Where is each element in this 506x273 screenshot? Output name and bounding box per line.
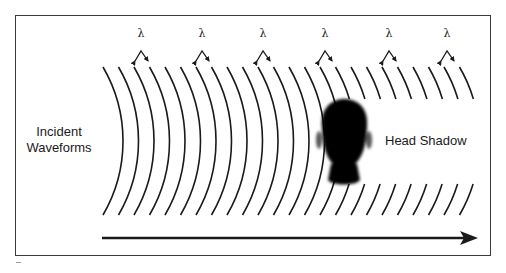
wavefront-arc: [103, 67, 123, 215]
wavefront-arc: [150, 67, 170, 215]
wavefront-arc: [367, 184, 381, 215]
wavefront-arc: [274, 67, 294, 215]
incident-label-line1: Incident: [24, 124, 94, 140]
lambda-label: λ: [260, 27, 267, 40]
wavefront-arc: [336, 67, 350, 99]
wavelength-arrow-icon: [319, 51, 332, 61]
wavefront-arc: [460, 184, 474, 215]
wavefront-arc: [336, 184, 350, 215]
wavefront-arc: [243, 67, 263, 215]
lambda-label: λ: [444, 27, 451, 40]
wavefront-arc: [134, 67, 154, 215]
wavefront-arc: [444, 67, 458, 99]
wavefront-arc: [382, 184, 396, 215]
wavefront-arc: [382, 67, 396, 99]
wavefront-arc: [429, 184, 443, 215]
figure-mark: [16, 262, 21, 271]
wavefront-arc: [444, 184, 458, 215]
lambda-label: λ: [138, 27, 145, 40]
wavefront-arc: [165, 67, 185, 215]
wavefront-arc: [367, 67, 381, 99]
wavefront-arc: [413, 184, 427, 215]
wavelength-arrow-icon: [196, 51, 209, 61]
wavefront-arc: [258, 67, 278, 215]
wavefront-arc: [413, 67, 427, 99]
lambda-label: λ: [386, 27, 393, 40]
wavefront-arc: [398, 184, 412, 215]
wavefront-arc: [351, 184, 365, 215]
wavefront-arc: [212, 67, 232, 215]
wavelength-arrow-icon: [257, 51, 270, 61]
lambda-label: λ: [322, 27, 329, 40]
lambda-label: λ: [199, 27, 206, 40]
wavefront-arc: [119, 67, 139, 215]
wavefront-arc: [227, 67, 247, 215]
head-shadow-label: Head Shadow: [385, 133, 467, 149]
wavefront-arc: [351, 67, 365, 99]
wavelength-arrow-icon: [441, 51, 454, 61]
incident-waveforms-label: Incident Waveforms: [24, 124, 94, 156]
propagation-direction-arrow: [102, 231, 478, 245]
wavefront-arc: [181, 67, 201, 215]
wavelength-arrow-icon: [135, 51, 148, 61]
incident-label-line2: Waveforms: [24, 140, 94, 156]
wavelength-markers: [135, 51, 454, 61]
wavelength-arrow-icon: [383, 51, 396, 61]
head-silhouette-icon: [316, 99, 372, 185]
wavefront-arc: [196, 67, 216, 215]
wavefront-arc: [398, 67, 412, 99]
wavefront-arc: [460, 67, 474, 99]
wavefront-arc: [289, 67, 309, 215]
wavefront-arc: [429, 67, 443, 99]
